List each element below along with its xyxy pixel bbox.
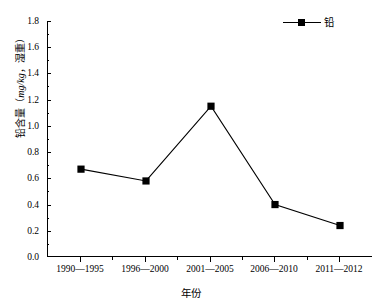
data-point-marker — [77, 166, 84, 173]
x-ticklabel: 2011—2012 — [315, 264, 362, 275]
x-ticklabel: 2001—2005 — [186, 264, 234, 275]
y-ticklabel: 0.6 — [27, 173, 39, 183]
y-axis-title-unit: mg/kg — [15, 73, 26, 97]
y-ticklabel: 1.4 — [27, 68, 39, 78]
x-tickmark — [339, 257, 340, 262]
x-minor-tickmark — [177, 257, 178, 260]
x-minor-tickmark — [307, 257, 308, 260]
plot-area — [47, 21, 372, 257]
x-axis-title: 年份 — [0, 285, 382, 300]
x-minor-tickmark — [242, 257, 243, 260]
series-line-lead — [81, 106, 340, 225]
x-tickmark — [80, 257, 81, 262]
x-ticklabel: 2006—2010 — [250, 264, 298, 275]
lead-content-line-chart: 1.8 1.6 1.4 1.2 1.0 0.8 0.6 0.4 0.2 0.0 … — [0, 0, 382, 308]
x-tickmark — [210, 257, 211, 262]
x-tickmark — [274, 257, 275, 262]
y-ticklabel: 0.8 — [27, 147, 39, 157]
x-tickmark — [145, 257, 146, 262]
series-markers-lead — [77, 103, 343, 230]
data-point-marker — [142, 177, 149, 184]
y-ticklabel: 1.6 — [27, 42, 39, 52]
data-point-marker — [336, 222, 343, 229]
y-ticklabel: 1.0 — [27, 121, 39, 131]
y-axis-title-suffix: ，湿重） — [15, 33, 26, 73]
y-ticklabel: 0.4 — [27, 200, 39, 210]
x-minor-tickmark — [112, 257, 113, 260]
legend-label-lead: 铅 — [324, 17, 334, 28]
y-ticklabel: 0.2 — [27, 226, 39, 236]
y-axis-title-prefix: 铅含量（ — [15, 98, 26, 138]
y-axis-title: 铅含量（mg/kg，湿重） — [12, 6, 27, 166]
x-ticklabel: 1990—1995 — [56, 264, 104, 275]
legend: 铅 — [283, 17, 334, 28]
data-point-marker — [207, 103, 214, 110]
x-ticklabel: 1996—2000 — [121, 264, 169, 275]
data-series-svg — [48, 21, 373, 257]
legend-square-marker-icon — [298, 19, 305, 26]
y-ticklabel: 1.2 — [27, 95, 39, 105]
y-ticklabel: 1.8 — [27, 16, 39, 26]
y-ticklabel: 0.0 — [27, 252, 39, 262]
data-point-marker — [271, 201, 278, 208]
legend-swatch-lead — [283, 18, 321, 28]
